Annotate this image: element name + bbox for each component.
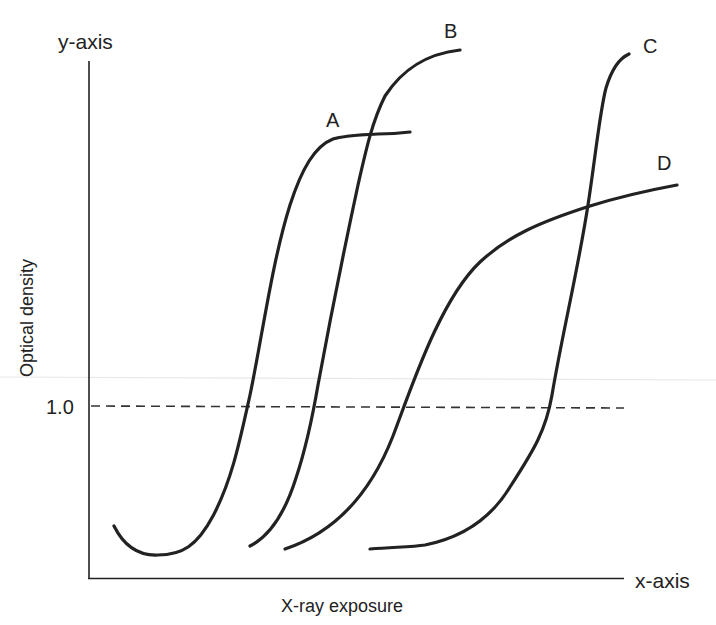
curve-label-b: B bbox=[444, 21, 457, 41]
y-axis-label: y-axis bbox=[58, 31, 113, 52]
characteristic-curve-figure: y-axis x-axis X-ray exposure Optical den… bbox=[0, 0, 716, 625]
curve-label-c: C bbox=[643, 36, 657, 56]
reference-dashed-line bbox=[91, 406, 624, 408]
curve-d bbox=[285, 185, 677, 549]
x-axis-title: X-ray exposure bbox=[281, 597, 403, 615]
x-axis-label: x-axis bbox=[635, 570, 690, 591]
curve-label-d: D bbox=[657, 153, 671, 173]
curve-a bbox=[114, 132, 410, 555]
curve-b bbox=[250, 50, 460, 546]
curve-label-a: A bbox=[326, 110, 339, 130]
scan-artifact-line bbox=[0, 377, 716, 380]
y-axis-title: Optical density bbox=[18, 253, 36, 383]
plot-area bbox=[0, 0, 716, 625]
reference-tick-label: 1.0 bbox=[46, 397, 74, 417]
curve-c bbox=[370, 54, 629, 549]
